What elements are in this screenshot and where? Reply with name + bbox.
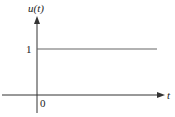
x-axis-label: t <box>167 89 171 101</box>
y-axis-arrow-icon <box>34 16 40 24</box>
y-axis-label: u(t) <box>28 2 44 15</box>
x-axis-arrow-icon <box>157 92 165 98</box>
step-function-diagram: u(t) t 1 0 <box>0 0 175 117</box>
level-label: 1 <box>26 43 32 55</box>
origin-label: 0 <box>40 97 46 109</box>
